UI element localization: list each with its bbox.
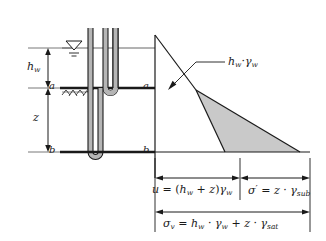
- pore-pressure-line-upper: [155, 35, 196, 90]
- piezometer-upper: [88, 28, 118, 96]
- label-depth-z: z: [33, 112, 39, 123]
- dim2-arrowhead-left: [155, 209, 163, 214]
- piezometer-lower: [88, 88, 103, 160]
- callout-arrowhead: [168, 81, 176, 90]
- tube-a-fill: [88, 28, 93, 88]
- label-callout-hw-gamma-w: hw·γw: [228, 56, 258, 68]
- equation-effective-stress: σ′ = z · γsub: [248, 184, 310, 198]
- label-point-b-right: b: [143, 145, 149, 155]
- label-depth-hw: hw: [27, 61, 41, 73]
- dim1-arrowhead-sigma-left: [240, 175, 248, 180]
- label-point-b-left: b: [49, 145, 55, 155]
- callout-leader-diagonal: [172, 62, 196, 86]
- arrowhead-hw-top: [45, 48, 51, 55]
- dim1-arrowhead-u-left: [155, 175, 163, 180]
- equation-total-stress: σv = hw · γw + z · γsat: [163, 218, 278, 230]
- tube-b-fill: [88, 88, 93, 152]
- water-table-triangle-icon: [66, 41, 82, 50]
- tube-a2-fill: [103, 28, 108, 88]
- tube-b2-fill: [98, 88, 103, 152]
- dim2-arrowhead-right: [302, 209, 310, 214]
- tube-a3-fill: [113, 28, 118, 88]
- label-point-a-left: a: [49, 81, 55, 91]
- label-point-a-right: a: [143, 81, 149, 91]
- figure-container: hw z a a b b hw·γw u = (hw + z)γw σ′ = z…: [0, 0, 326, 241]
- dim1-arrowhead-u-right: [232, 175, 240, 180]
- soil-stress-diagram: [0, 0, 326, 241]
- equation-pore-pressure: u = (hw + z)γw: [152, 184, 232, 196]
- dim1-arrowhead-sigma-right: [302, 175, 310, 180]
